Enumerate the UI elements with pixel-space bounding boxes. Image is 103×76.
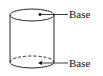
top-base-label: Base (69, 8, 91, 20)
top-pointer-dot (39, 13, 42, 16)
top-base-ellipse (10, 9, 54, 21)
bottom-pointer-arrowhead (38, 61, 42, 65)
bottom-base-back-dashed (10, 56, 54, 62)
cylinder-diagram: Base Base (0, 0, 103, 76)
bottom-base-label: Base (69, 57, 91, 69)
